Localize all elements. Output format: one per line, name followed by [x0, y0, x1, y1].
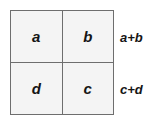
grid-diagram: a b d c a+b c+d	[0, 0, 166, 125]
grid-cell-c[interactable]: c	[62, 63, 114, 115]
grid-cell-b[interactable]: b	[62, 11, 114, 63]
grid-cell-d[interactable]: d	[11, 63, 63, 115]
grid-cell-a[interactable]: a	[11, 11, 63, 63]
row-sum-label-bottom: c+d	[120, 82, 166, 98]
two-by-two-grid: a b d c	[10, 10, 114, 115]
grid-cell-b-label: b	[63, 29, 114, 44]
grid-row-bottom: d c	[11, 63, 114, 115]
grid-cell-d-label: d	[11, 81, 62, 96]
grid-row-top: a b	[11, 11, 114, 63]
grid-cell-c-label: c	[63, 81, 114, 96]
grid-cell-a-label: a	[11, 29, 62, 44]
row-sum-label-top: a+b	[120, 30, 166, 46]
